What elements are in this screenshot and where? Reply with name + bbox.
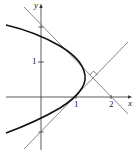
tangent-lines <box>24 7 128 149</box>
axes <box>6 4 132 151</box>
x-axis-label: x <box>128 99 132 108</box>
y-axis-label: y <box>34 1 38 10</box>
x-tick-label-2: 2 <box>109 100 114 109</box>
y-axis-arrow-icon <box>39 4 42 9</box>
parabola-curve <box>6 25 85 133</box>
parabola-diagram <box>0 0 134 154</box>
y-tick-label-1: 1 <box>32 57 37 66</box>
x-tick-label-1: 1 <box>74 100 79 109</box>
